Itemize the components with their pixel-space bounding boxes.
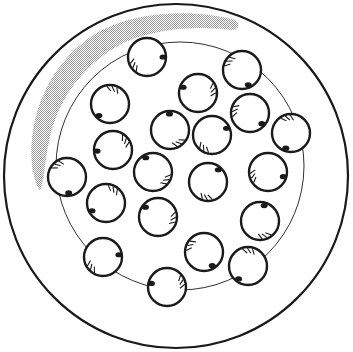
cell (148, 268, 186, 306)
nucleus-dot (95, 113, 102, 118)
cell (91, 85, 129, 123)
nucleus-dot (223, 126, 230, 131)
cell (87, 184, 125, 222)
cell (241, 202, 279, 240)
cell (193, 116, 231, 154)
cell (139, 198, 177, 236)
nucleus-dot (166, 111, 173, 116)
cells (48, 38, 310, 306)
cell (151, 111, 189, 149)
nucleus-dot (142, 155, 149, 160)
cell (128, 38, 167, 76)
nucleus-dot (209, 263, 216, 268)
nucleus-dot (215, 167, 222, 172)
nucleus-dot (245, 82, 252, 87)
nucleus-dot (89, 208, 96, 213)
nucleus-dot (94, 149, 101, 154)
cell (185, 233, 223, 271)
nucleus-dot (160, 54, 167, 59)
cell (84, 238, 122, 276)
cell (223, 51, 261, 89)
cell (229, 247, 267, 285)
nucleus-dot (148, 281, 155, 286)
nucleus-dot (180, 85, 187, 90)
cell (134, 153, 172, 191)
nucleus-dot (261, 203, 268, 208)
nucleus-dot (65, 190, 72, 195)
cell (48, 158, 86, 196)
nucleus-dot (115, 252, 122, 257)
nucleus-dot (282, 146, 289, 151)
cell (272, 114, 310, 152)
nucleus-dot (258, 121, 265, 126)
nucleus-dot (142, 205, 149, 210)
cell (179, 74, 217, 112)
cell (231, 94, 269, 132)
cell (249, 153, 287, 191)
nucleus-dot (235, 276, 242, 281)
cell (94, 131, 132, 169)
petri-dish-diagram (0, 0, 353, 352)
nucleus-dot (280, 174, 287, 179)
cell (189, 163, 227, 201)
